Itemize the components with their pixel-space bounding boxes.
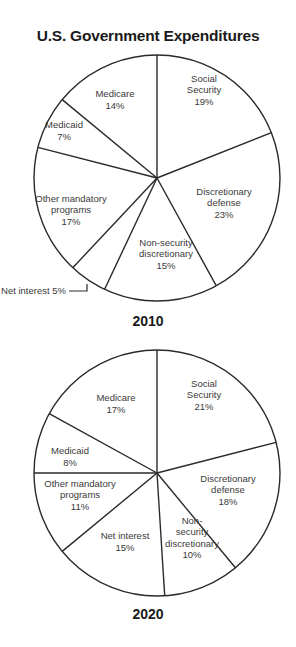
net-interest-callout bbox=[69, 284, 87, 291]
year-label-2010: 2010 bbox=[0, 313, 296, 329]
pie-chart-2020: SocialSecurity21%Discretionarydefense18%… bbox=[34, 350, 280, 596]
year-label-2020: 2020 bbox=[0, 606, 296, 622]
pie-chart-2010: SocialSecurity19%Discretionarydefense23%… bbox=[1, 55, 280, 301]
slice-label-net-interest: Net interest 5% bbox=[1, 285, 66, 296]
